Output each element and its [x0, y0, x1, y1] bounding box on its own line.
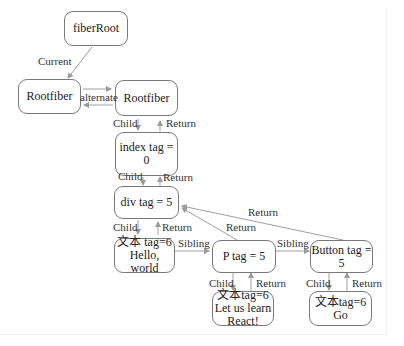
node-fiber-root: fiberRoot [64, 11, 128, 46]
node-label-line3: React! [227, 315, 258, 328]
node-label-line2: Go [333, 309, 348, 322]
node-label: Button tag = 5 [311, 244, 372, 270]
node-label: fiberRoot [73, 22, 119, 35]
edge-label-alternate: alternate [80, 91, 118, 103]
edge-label-return-text3: Return [352, 277, 382, 289]
node-label: Rootfiber [124, 92, 170, 105]
node-rootfiber-alternate: Rootfiber [115, 80, 178, 116]
node-text-go: 文本tag=6 Go [309, 291, 372, 326]
edge-label-return-text1: Return [162, 221, 192, 233]
diagram-canvas: fiberRoot Rootfiber Rootfiber index tag … [0, 0, 386, 334]
edge-label-sibling-2: Sibling [277, 237, 309, 249]
edge-label-return-div: Return [163, 171, 193, 183]
node-p: P tag = 5 [212, 240, 276, 273]
edge-label-child-div: Child [113, 221, 137, 233]
node-rootfiber-current: Rootfiber [18, 79, 81, 114]
edge-label-child-index: Child [118, 170, 142, 182]
node-text-learn: 文本tag=6 Let us learn React! [212, 291, 274, 326]
node-label: div tag = 5 [121, 196, 173, 209]
edge-label-child-root: Child [113, 117, 137, 129]
edge-label-child-p: Child [209, 277, 233, 289]
edge-label-return-button: Return [248, 206, 278, 218]
edge-label-child-button: Child [306, 277, 330, 289]
edge-label-return-p: Return [226, 221, 256, 233]
edge-label-return-index: Return [166, 117, 196, 129]
node-label: P tag = 5 [223, 250, 266, 263]
edge-label-current: Current [38, 55, 72, 67]
node-label: Rootfiber [27, 90, 73, 103]
node-label-line2: Hello, world [115, 249, 174, 275]
node-label-line1: 文本tag=6 [315, 296, 366, 309]
node-div: div tag = 5 [114, 186, 179, 219]
edge-label-return-text2: Return [256, 277, 286, 289]
edge-label-sibling-1: Sibling [178, 237, 210, 249]
frame-edge-bottom [0, 334, 387, 335]
node-text-hello: 文本 tag=6 Hello, world [114, 238, 175, 273]
node-label: index tag = 0 [116, 141, 177, 167]
node-button: Button tag = 5 [310, 240, 373, 273]
frame-edge-right [386, 8, 387, 334]
